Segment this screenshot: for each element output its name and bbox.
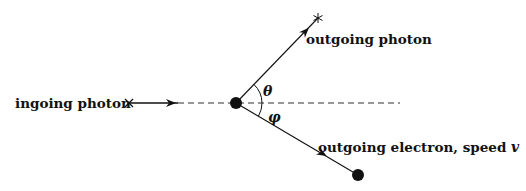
scattering-point: [230, 97, 242, 109]
speed-symbol: v: [511, 139, 520, 155]
ingoing-photon-path: [129, 99, 178, 107]
theta-label: θ: [263, 83, 273, 99]
theta-arc: [254, 85, 262, 104]
phi-arc: [259, 103, 263, 116]
phi-label: φ: [268, 109, 281, 125]
outgoing-photon-label: outgoing photon: [306, 31, 432, 47]
electron-label-text: outgoing electron, speed: [318, 139, 511, 155]
ingoing-photon-label: ingoing photon: [15, 95, 131, 111]
compton-diagram: ingoing photon outgoing photon outgoing …: [0, 0, 526, 191]
outgoing-electron-label: outgoing electron, speed v: [318, 139, 520, 155]
electron-dot: [352, 169, 364, 181]
